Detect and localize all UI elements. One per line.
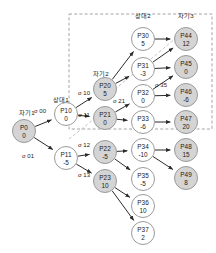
node-value-label: 5 <box>141 40 145 47</box>
node-value-label: -6 <box>183 96 189 103</box>
node-value-label: 10 <box>101 182 109 189</box>
node-value-label: -10 <box>138 151 148 158</box>
node-value-label: 0 <box>22 132 26 139</box>
edge-label-sigma-35: σ 35 <box>155 82 168 88</box>
node-id-label: P44 <box>180 32 192 39</box>
tree-node-p21[interactable]: P210 <box>94 107 117 130</box>
node-value-label: -6 <box>140 123 146 130</box>
edge-label-sigma-13: σ 13 <box>78 172 91 178</box>
e-P34-P49 <box>153 157 173 170</box>
e-P22-P34 <box>117 151 127 152</box>
tree-node-p49[interactable]: P498 <box>175 167 198 190</box>
node-value-label: 0 <box>103 119 107 126</box>
tree-node-p47[interactable]: P4720 <box>175 111 198 134</box>
node-id-label: P36 <box>137 199 149 206</box>
tree-node-p0[interactable]: P00 <box>13 120 36 143</box>
e-P0-P10 <box>35 120 51 127</box>
edge-label-sigma-21: σ 21 <box>113 98 126 104</box>
node-id-label: P35 <box>137 172 149 179</box>
tree-node-p32[interactable]: P320 <box>132 85 155 108</box>
tree-node-p22[interactable]: P22-5 <box>94 141 117 164</box>
node-value-label: 5 <box>103 90 107 97</box>
tree-node-p45[interactable]: P450 <box>175 56 198 79</box>
edge-label-sigma-00: σ 00 <box>34 108 47 114</box>
game-tree-svg: P00P100P11-5P205P210P22-5P2310P305P31-3P… <box>0 0 216 253</box>
tree-node-p23[interactable]: P2310 <box>94 170 117 193</box>
e-P23-P36 <box>115 188 130 198</box>
node-id-label: P37 <box>137 226 149 233</box>
tree-node-p35[interactable]: P35-5 <box>132 168 155 191</box>
tree-node-p30[interactable]: P305 <box>132 28 155 51</box>
tree-node-p33[interactable]: P33-6 <box>132 111 155 134</box>
e-P11-P22 <box>78 154 90 156</box>
node-value-label: -5 <box>102 153 108 160</box>
tree-node-p48[interactable]: P4815 <box>175 139 198 162</box>
node-id-label: P11 <box>61 151 72 158</box>
node-id-label: P22 <box>99 145 111 152</box>
node-value-label: 2 <box>141 234 145 241</box>
e-P31-P45 <box>155 68 170 69</box>
tier-self-3-label: 자기3 <box>178 12 194 20</box>
e-P20-P30 <box>112 51 133 79</box>
e-P22-P35 <box>115 159 130 170</box>
node-id-label: P32 <box>137 89 149 96</box>
e-P21-P33 <box>117 119 127 120</box>
node-id-label: P0 <box>20 124 28 131</box>
tier-opponent-2-label: 상대2 <box>135 12 151 20</box>
edge-label-sigma-01: σ 01 <box>22 153 35 159</box>
edge-label-sigma-12: σ 12 <box>78 142 91 148</box>
tier-self-1-label: 자기1 <box>19 109 35 117</box>
node-value-label: 20 <box>182 123 190 130</box>
e-P21-P32 <box>115 104 129 112</box>
tree-node-p46[interactable]: P46-6 <box>175 84 198 107</box>
tree-node-p34[interactable]: P34-10 <box>132 139 155 162</box>
node-value-label: -5 <box>63 159 69 166</box>
node-id-label: P10 <box>60 107 72 114</box>
node-id-label: P23 <box>99 174 111 181</box>
tier-label-layer: 자기1상대1자기2상대2자기3 <box>19 12 194 117</box>
tree-node-p44[interactable]: P4412 <box>175 28 198 51</box>
tree-node-p11[interactable]: P11-5 <box>55 147 78 170</box>
game-tree-diagram: P00P100P11-5P205P210P22-5P2310P305P31-3P… <box>0 0 216 253</box>
e-P0-P11 <box>34 137 53 149</box>
node-id-label: P34 <box>137 143 149 150</box>
node-id-label: P21 <box>99 111 111 118</box>
tree-node-p31[interactable]: P31-3 <box>132 58 155 81</box>
e-P23-P37 <box>112 191 134 221</box>
tier-self-2-label: 자기2 <box>93 70 109 78</box>
node-value-label: 0 <box>141 97 145 104</box>
e-P20-P31 <box>116 76 129 83</box>
node-id-label: P20 <box>99 82 111 89</box>
node-value-label: 10 <box>139 207 147 214</box>
edge-label-sigma-11: σ 11 <box>78 112 90 118</box>
node-id-label: P46 <box>180 88 192 95</box>
node-value-label: -5 <box>140 180 146 187</box>
e-P10-P20 <box>76 97 92 107</box>
node-value-label: 8 <box>184 179 188 186</box>
edge-label-sigma-10: σ 10 <box>78 90 91 96</box>
node-id-label: P45 <box>180 60 192 67</box>
node-value-label: 0 <box>64 115 68 122</box>
tree-node-p36[interactable]: P3610 <box>132 195 155 218</box>
tree-node-p37[interactable]: P372 <box>132 222 155 245</box>
node-id-label: P47 <box>180 115 192 122</box>
node-id-label: P48 <box>180 143 192 150</box>
node-id-label: P31 <box>137 62 149 69</box>
node-value-label: -3 <box>140 70 146 77</box>
node-value-label: 0 <box>184 68 188 75</box>
node-id-label: P49 <box>180 171 192 178</box>
node-id-label: P33 <box>137 115 149 122</box>
node-layer: P00P100P11-5P205P210P22-5P2310P305P31-3P… <box>13 28 198 245</box>
node-value-label: 15 <box>182 151 190 158</box>
tier-opponent-1-label: 상대1 <box>53 96 69 104</box>
tree-node-p10[interactable]: P100 <box>55 103 78 126</box>
node-value-label: 12 <box>182 40 190 47</box>
node-id-label: P30 <box>137 32 149 39</box>
